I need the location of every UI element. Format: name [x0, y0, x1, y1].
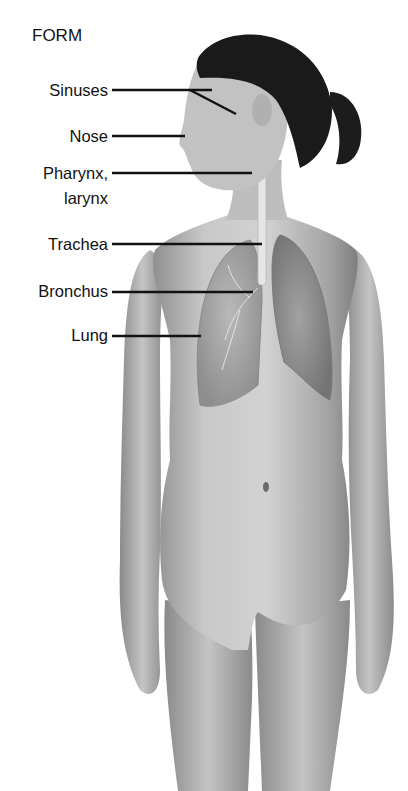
head: [179, 34, 361, 190]
label-pharynx: Pharynx,: [43, 163, 108, 183]
legs: [164, 600, 350, 791]
diagram-title: FORM: [32, 26, 82, 46]
navel: [263, 482, 269, 492]
ponytail: [330, 92, 361, 164]
label-trachea: Trachea: [48, 234, 108, 254]
ear: [252, 94, 272, 126]
label-bronchus: Bronchus: [38, 281, 108, 301]
label-sinuses: Sinuses: [49, 80, 108, 100]
trachea-tube: [258, 175, 266, 285]
label-larynx: larynx: [64, 188, 108, 208]
label-lung: Lung: [71, 325, 108, 345]
respiratory-diagram: FORM Sinuses Nose Pharynx, larynx Trache…: [0, 0, 408, 791]
body-figure: [0, 0, 408, 791]
label-nose: Nose: [69, 126, 108, 146]
